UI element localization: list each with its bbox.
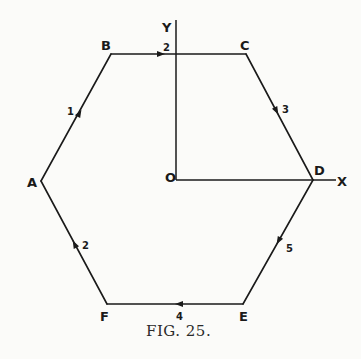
figure-caption: FIG. 25. — [146, 322, 211, 340]
vertex-label-d: D — [314, 163, 325, 178]
magnitude-ef: 4 — [176, 311, 183, 322]
y-axis-label: Y — [161, 20, 172, 35]
magnitude-fa: 2 — [82, 240, 89, 251]
vertex-label-e: E — [239, 309, 248, 324]
hexagon-figure: A B C D E F O X Y 1 2 3 5 4 2 FIG. 25. — [0, 0, 361, 359]
vertex-label-a: A — [27, 175, 37, 190]
arrow-ef-icon — [175, 301, 183, 307]
magnitude-de: 5 — [286, 243, 293, 254]
edge-ab — [41, 54, 111, 181]
vertex-label-b: B — [101, 38, 111, 53]
arrow-cd-icon — [272, 106, 281, 116]
origin-label: O — [165, 170, 176, 185]
magnitude-cd: 3 — [282, 104, 289, 115]
arrow-de-icon — [274, 236, 283, 246]
magnitude-bc: 2 — [163, 42, 170, 53]
edge-cd — [246, 54, 313, 180]
x-axis-label: X — [337, 174, 347, 189]
vertex-label-f: F — [100, 309, 109, 324]
arrow-fa-icon — [70, 239, 79, 249]
magnitude-ab: 1 — [67, 106, 74, 117]
vertex-label-c: C — [240, 38, 250, 53]
